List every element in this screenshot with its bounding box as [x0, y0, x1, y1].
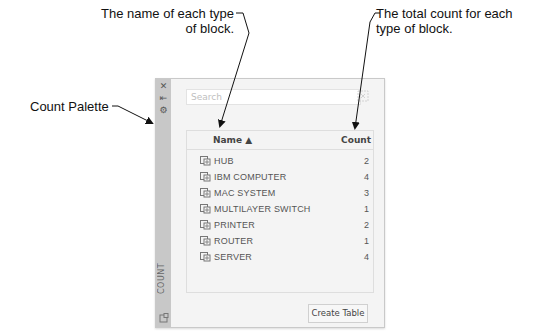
callout-lines	[0, 0, 539, 334]
